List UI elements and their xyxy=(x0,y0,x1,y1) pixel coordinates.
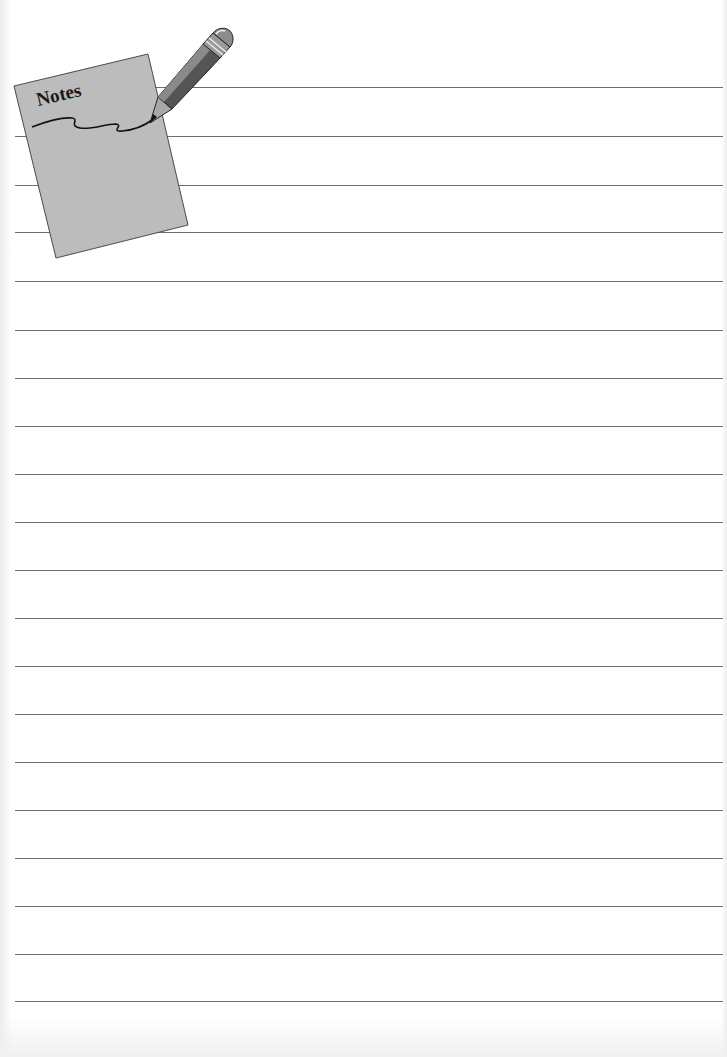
ruled-line xyxy=(15,810,723,811)
pencil-icon xyxy=(150,28,233,123)
ruled-line xyxy=(15,330,723,331)
ruled-line xyxy=(15,762,723,763)
notepad-with-pencil-icon: Notes xyxy=(0,0,250,270)
page-edge-bottom xyxy=(0,1017,727,1057)
ruled-line xyxy=(15,570,723,571)
ruled-line xyxy=(15,426,723,427)
ruled-line xyxy=(15,666,723,667)
ruled-line xyxy=(15,906,723,907)
ruled-line xyxy=(15,858,723,859)
page-edge-right xyxy=(722,0,727,1057)
ruled-line xyxy=(15,474,723,475)
ruled-line xyxy=(15,1001,723,1002)
ruled-line xyxy=(15,522,723,523)
ruled-line xyxy=(15,954,723,955)
ruled-line xyxy=(15,714,723,715)
ruled-line xyxy=(15,281,723,282)
notepad-sheet xyxy=(14,54,188,258)
ruled-line xyxy=(15,618,723,619)
ruled-line xyxy=(15,378,723,379)
